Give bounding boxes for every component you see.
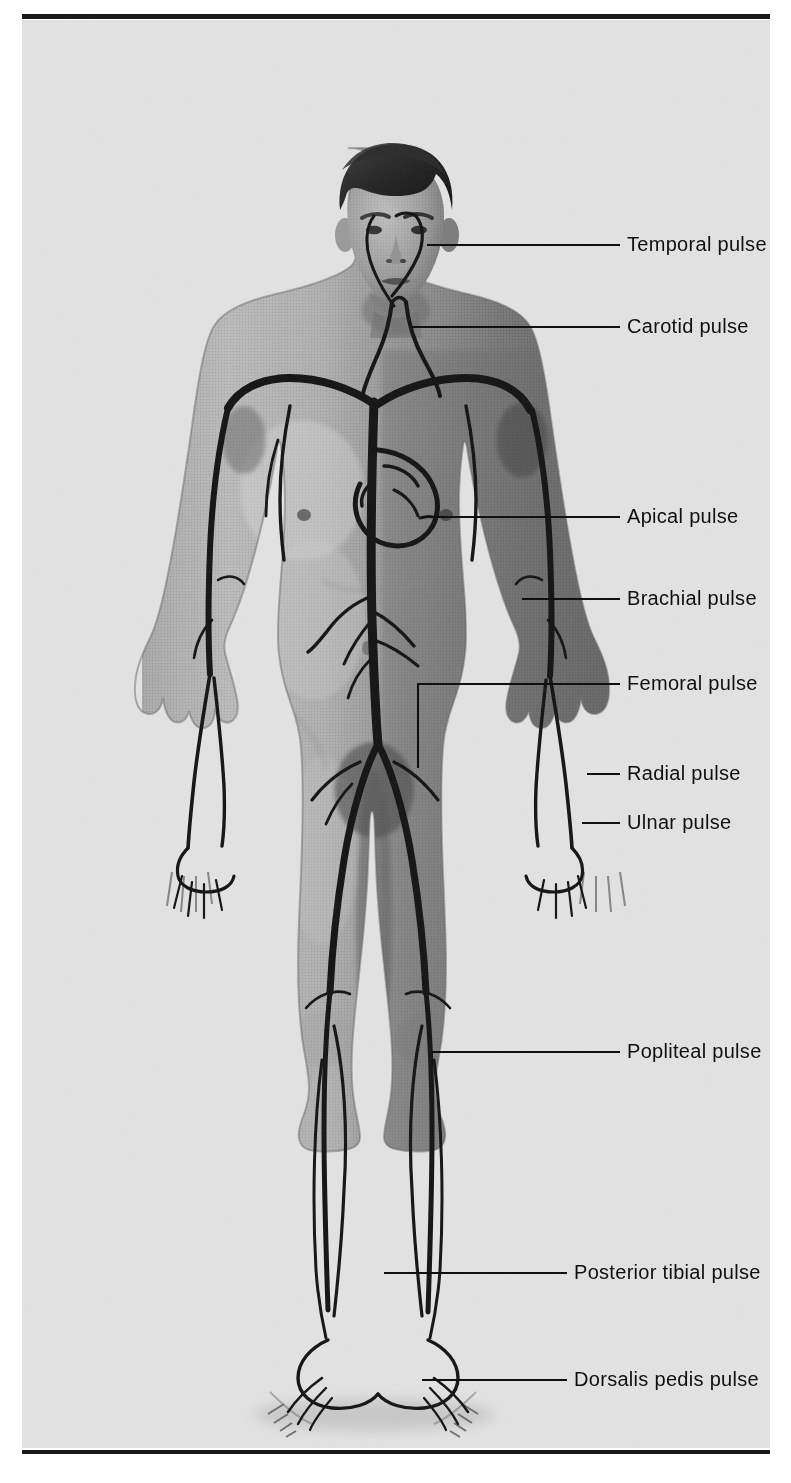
leader-line-femoral	[417, 683, 620, 685]
label-apical: Apical pulse	[627, 506, 738, 526]
label-ulnar: Ulnar pulse	[627, 812, 731, 832]
figure-panel: This illustration shows the locations of…	[0, 0, 791, 1483]
top-rule	[22, 14, 770, 19]
leader-line-carotid	[411, 326, 620, 328]
label-brachial: Brachial pulse	[627, 588, 757, 608]
label-dorsalis-pedis: Dorsalis pedis pulse	[574, 1369, 759, 1389]
leader-line-radial	[587, 773, 620, 775]
anatomy-illustration: Temporal pulseCarotid pulseApical pulseB…	[22, 20, 770, 1448]
bottom-rule	[22, 1450, 770, 1454]
leader-line-apical	[422, 516, 620, 518]
leader-line-temporal	[427, 244, 620, 246]
label-carotid: Carotid pulse	[627, 316, 749, 336]
figure-content-plate: This illustration shows the locations of…	[22, 20, 770, 1448]
leader-line-posterior-tibial	[384, 1272, 567, 1274]
leader-drop-femoral	[417, 683, 419, 768]
leader-line-dorsalis-pedis	[422, 1379, 567, 1381]
label-popliteal: Popliteal pulse	[627, 1041, 762, 1061]
leader-line-brachial	[522, 598, 620, 600]
leader-line-ulnar	[582, 822, 620, 824]
label-radial: Radial pulse	[627, 763, 741, 783]
leader-line-popliteal	[432, 1051, 620, 1053]
label-posterior-tibial: Posterior tibial pulse	[574, 1262, 761, 1282]
label-temporal: Temporal pulse	[627, 234, 767, 254]
label-femoral: Femoral pulse	[627, 673, 758, 693]
